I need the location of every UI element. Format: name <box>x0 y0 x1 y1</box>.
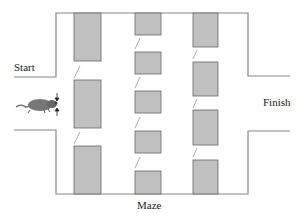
maze-block <box>193 62 218 96</box>
door <box>74 132 80 144</box>
door <box>193 50 197 59</box>
maze-block <box>135 13 161 35</box>
maze-caption: Maze <box>137 199 162 211</box>
start-label: Start <box>14 61 35 73</box>
maze-block <box>74 80 101 128</box>
column-3 <box>193 13 218 194</box>
rat-icon <box>16 99 58 113</box>
door <box>135 38 140 49</box>
door <box>135 157 140 168</box>
maze-diagram: Start Finish Maze <box>0 0 304 216</box>
door <box>135 77 140 88</box>
maze-block <box>193 110 218 145</box>
maze-block <box>193 160 218 194</box>
door <box>74 66 80 78</box>
finish-label: Finish <box>263 96 291 108</box>
maze-block <box>135 131 161 153</box>
door <box>135 117 140 128</box>
maze-block <box>135 52 161 74</box>
door <box>193 148 197 157</box>
maze-block <box>74 13 101 61</box>
maze-block <box>135 91 161 113</box>
maze-block <box>74 146 101 194</box>
maze-block <box>193 13 218 47</box>
column-1 <box>74 13 101 194</box>
door <box>193 99 197 108</box>
maze-block <box>135 171 161 194</box>
